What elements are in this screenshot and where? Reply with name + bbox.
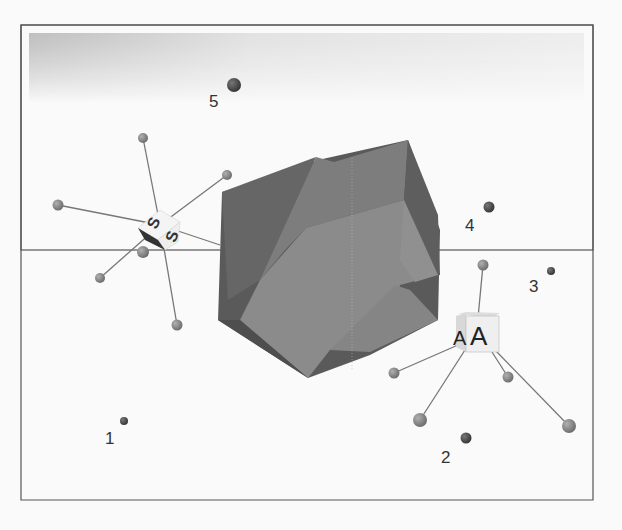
ligand-sphere [413,413,427,427]
ligand-sphere [478,260,489,271]
ligand-sphere [53,200,64,211]
diagram-canvas: S S A A 5 4 3 2 1 [0,0,622,530]
cube-a-side-label: A [453,327,467,349]
cube-s: S S [138,210,182,250]
ligand-sphere [138,133,148,143]
bond [478,265,483,318]
point-1-label: 1 [105,429,114,448]
point-3-dot [547,267,555,275]
point-3-label: 3 [529,277,538,296]
background-gradient [29,33,584,103]
cube-a: A A [453,312,500,352]
bond [394,345,458,373]
bond [420,350,465,420]
cube-a-label: A [470,321,488,351]
point-1-dot [120,417,128,425]
ligand-sphere [562,419,576,433]
point-2-label: 2 [441,448,450,467]
bond [495,350,569,426]
point-4-label: 4 [465,216,474,235]
central-polyhedron [218,140,440,378]
ligand-sphere [503,372,514,383]
ligand-sphere [95,273,105,283]
ligand-sphere [222,170,232,180]
point-5-dot [227,78,241,92]
ligand-sphere [137,246,149,258]
ligand-sphere [389,368,400,379]
ligand-sphere [172,320,183,331]
point-5-label: 5 [209,92,218,111]
point-4-dot [484,202,495,213]
point-2-dot [461,433,472,444]
